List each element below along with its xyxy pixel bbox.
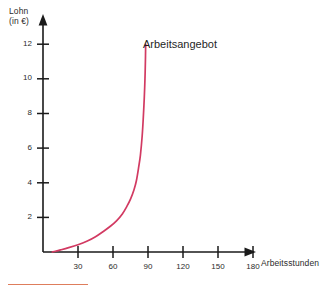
x-tick-label-90: 90 — [136, 262, 160, 271]
x-tick-label-180: 180 — [241, 262, 265, 271]
footer-caption — [8, 287, 308, 293]
y-tick-label-6: 6 — [16, 143, 32, 152]
x-axis-title: Arbeitsstunden — [261, 258, 319, 268]
y-tick-label-10: 10 — [16, 73, 32, 82]
y-tick-label-4: 4 — [16, 178, 32, 187]
y-axis-title-line2: (in €) — [9, 16, 29, 26]
y-axis-title-line1: Lohn — [9, 6, 29, 16]
x-tick-label-60: 60 — [101, 262, 125, 271]
chart-container: Lohn (in €) Arbeitsstunden 12 10 8 6 4 2… — [0, 0, 334, 293]
y-axis-arrow-icon — [39, 14, 48, 26]
y-tick-label-12: 12 — [16, 39, 32, 48]
x-tick-label-30: 30 — [66, 262, 90, 271]
footer-rule — [8, 284, 88, 285]
series-line-arbeitsangebot — [52, 44, 145, 252]
y-tick-label-8: 8 — [16, 108, 32, 117]
x-tick-label-120: 120 — [171, 262, 195, 271]
series-annotation-arbeitsangebot: Arbeitsangebot — [143, 38, 217, 50]
x-axis-arrow-icon — [245, 248, 257, 257]
y-axis-title: Lohn (in €) — [9, 6, 29, 26]
y-tick-label-2: 2 — [16, 212, 32, 221]
x-tick-label-150: 150 — [206, 262, 230, 271]
